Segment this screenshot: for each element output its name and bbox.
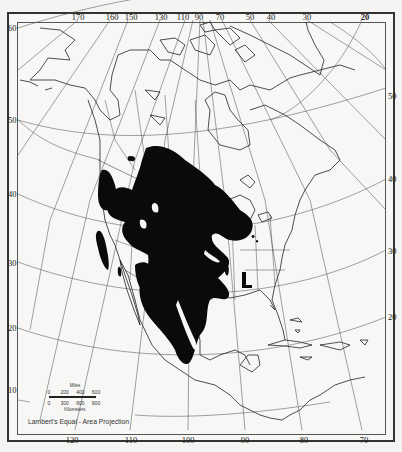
latitude-50 (18, 88, 386, 136)
latitude-label-left: 20 (8, 324, 17, 333)
longitude-label-bottom: 70 (360, 436, 369, 445)
scale-km-tick: 300 (61, 400, 69, 406)
shaded-region-california (96, 231, 109, 270)
latitude-label-left: 30 (8, 259, 17, 268)
projection-label: Lambert's Equal - Area Projection (28, 418, 129, 425)
longitude-label-top: 20 (361, 13, 370, 22)
scale-bar-line (49, 396, 96, 398)
longitude-label-top: 110 (177, 13, 189, 22)
longitude-160 (18, 20, 110, 155)
longitude-label-top: 90 (195, 13, 204, 22)
yucatan (240, 355, 260, 372)
latitude-label-right: 30 (388, 247, 397, 256)
longitude-label-top: 50 (246, 13, 255, 22)
shaded-region-oregon (118, 267, 122, 277)
latitude-label-left: 50 (8, 116, 17, 125)
labrador-coast (250, 105, 340, 340)
longitude-40 (268, 20, 386, 140)
scale-miles-tick: 400 (76, 389, 84, 395)
scale-miles-tick: 600 (92, 389, 100, 395)
arctic-islands (145, 22, 255, 125)
shaded-region-east-2 (225, 264, 229, 275)
shaded-region-east-3 (252, 235, 259, 242)
shaded-region-east-1 (242, 272, 252, 288)
latitude-label-left: 10 (8, 386, 17, 395)
longitude-label-top: 30 (303, 13, 312, 22)
longitude-label-bottom: 110 (125, 436, 137, 445)
longitude-label-bottom: 100 (182, 436, 195, 445)
scale-km-title: Kilometers (45, 407, 105, 412)
latitude-label-right: 40 (388, 175, 397, 184)
scale-km-tick: 0 (48, 400, 51, 406)
scale-miles-tick: 0 (48, 389, 51, 395)
scale-miles-tick: 200 (61, 389, 69, 395)
latitude-label-left: 40 (8, 190, 17, 199)
longitude-150 (30, 20, 128, 330)
scale-miles-title: Miles (45, 383, 105, 388)
latitude-label-left: 60 (8, 24, 17, 33)
longitude-170 (18, 20, 78, 70)
longitude-label-bottom: 120 (66, 436, 79, 445)
longitude-label-bottom: 90 (241, 436, 250, 445)
longitude-20 (270, 20, 362, 120)
scale-km-tick: 900 (92, 400, 100, 406)
latitude-50-left (18, 120, 100, 160)
central-america (195, 377, 365, 420)
shaded-regions (96, 146, 258, 364)
longitude-label-bottom: 80 (300, 436, 309, 445)
longitude-50 (250, 20, 386, 210)
greenland (230, 22, 324, 75)
longitude-label-top: 170 (72, 13, 85, 22)
shaded-region-main (107, 146, 253, 364)
longitude-label-top: 130 (155, 13, 168, 22)
longitude-label-top: 160 (106, 13, 119, 22)
latitude-10 (18, 400, 30, 402)
hudson-bay (205, 92, 250, 150)
longitude-label-top: 150 (125, 13, 138, 22)
shaded-region-north-dot (128, 156, 133, 161)
longitude-30 (307, 20, 386, 70)
longitude-label-top: 70 (216, 13, 225, 22)
longitude-label-top: 40 (267, 13, 276, 22)
latitude-label-right: 20 (388, 313, 397, 322)
latitude-label-right: 50 (388, 92, 397, 101)
alaska-aleutians (20, 80, 52, 90)
scale-km-tick: 600 (76, 400, 84, 406)
